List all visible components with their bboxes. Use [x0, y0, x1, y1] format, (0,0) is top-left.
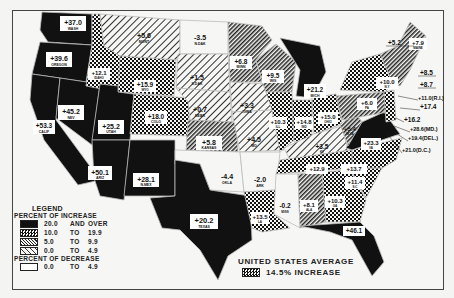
svg-text:ALA: ALA	[306, 208, 313, 212]
label-nmex: +28.1N.MEX	[133, 173, 159, 187]
label-oregon: +39.6OREGON	[46, 52, 72, 67]
label-sc: +11.4S.C	[345, 177, 365, 189]
svg-text:-2.0: -2.0	[254, 176, 266, 183]
label-calif: +53.3CALIF	[33, 120, 55, 134]
swatch-solid	[20, 220, 38, 228]
label-wyo: +15.9WYO	[134, 80, 156, 92]
legend-row-5-9: 5.0TO9.9	[14, 237, 108, 246]
svg-text:+37.0: +37.0	[64, 19, 82, 26]
svg-text:WASH: WASH	[68, 27, 79, 31]
label-ri: +11.0(R.I.)	[418, 95, 444, 101]
label-ndak: -3.5N.DAK	[194, 34, 206, 46]
us-average-value: 14.5% INCREASE	[266, 268, 341, 277]
svg-text:OREGON: OREGON	[51, 63, 67, 67]
svg-text:ARK: ARK	[256, 184, 264, 188]
svg-text:S.DAK: S.DAK	[192, 82, 203, 86]
legend-row-decrease: 0.0TO4.9	[14, 262, 108, 271]
label-ala: +8.1ALA	[300, 200, 318, 212]
label-dc: +21.0(D.C.)	[402, 147, 431, 153]
svg-text:IND: IND	[301, 125, 307, 129]
svg-text:+18.0: +18.0	[148, 113, 165, 120]
label-ohio: +15.0OHIO	[318, 112, 338, 124]
swatch-check	[242, 268, 260, 277]
svg-text:COLO: COLO	[151, 120, 161, 124]
label-nebr: +0.7NEBR	[193, 106, 207, 118]
legend-increase-header: PERCENT OF INCREASE	[14, 212, 108, 219]
svg-text:MICH: MICH	[311, 94, 320, 98]
svg-text:N.Y: N.Y	[384, 85, 389, 89]
svg-text:+50.1: +50.1	[91, 169, 109, 176]
svg-text:-4.4: -4.4	[221, 173, 233, 180]
label-sdak: +1.5S.DAK	[190, 74, 204, 86]
label-vt: +8.5	[420, 69, 433, 76]
svg-text:NEBR: NEBR	[195, 114, 205, 118]
svg-text:S.C: S.C	[352, 185, 358, 189]
svg-text:TEXAS: TEXAS	[198, 225, 210, 229]
svg-text:MONT: MONT	[139, 40, 150, 44]
label-wash: +37.0WASH	[60, 16, 86, 31]
svg-text:-0.2: -0.2	[279, 202, 291, 209]
svg-text:+6.8: +6.8	[235, 58, 248, 65]
svg-text:N.DAK: N.DAK	[194, 42, 206, 46]
svg-text:+5.6: +5.6	[137, 32, 151, 39]
label-mass: +8.7	[420, 81, 433, 88]
svg-text:CALIF: CALIF	[39, 130, 50, 134]
svg-text:+4.5: +4.5	[247, 136, 261, 143]
svg-text:+3.3: +3.3	[240, 102, 254, 109]
label-colo: +18.0COLO	[145, 111, 167, 124]
swatch-dense-hatch	[20, 238, 38, 246]
legend: LEGEND PERCENT OF INCREASE 20.0ANDOVER 1…	[14, 205, 108, 271]
label-nj: +16.2	[404, 116, 421, 123]
label-wis: +9.5WIS	[262, 70, 284, 83]
svg-text:N.MEX: N.MEX	[140, 183, 152, 187]
svg-text:+46.1: +46.1	[346, 227, 363, 234]
label-ill: +10.3ILL	[269, 117, 287, 129]
svg-text:ILL: ILL	[276, 125, 281, 129]
label-tenn: +12.9	[306, 164, 328, 174]
svg-text:+28.1: +28.1	[137, 176, 155, 183]
legend-row-0-4: 0.0TO4.9	[14, 246, 108, 255]
svg-text:+45.2: +45.2	[62, 108, 80, 115]
state-sdak	[176, 54, 230, 92]
state-nmex	[124, 140, 175, 196]
label-mich: +21.2MICH	[304, 84, 326, 98]
label-nev: +45.2NEV	[58, 105, 84, 120]
legend-row-10-19: 10.0TO19.9	[14, 228, 108, 237]
label-nc: +13.7	[341, 164, 367, 174]
svg-text:+13.7: +13.7	[346, 166, 362, 172]
svg-text:IDAHO: IDAHO	[94, 76, 104, 80]
swatch-check	[20, 229, 38, 237]
svg-text:+0.7: +0.7	[193, 106, 207, 113]
label-ariz: +50.1ARIZ	[88, 166, 112, 180]
swatch-white	[20, 263, 38, 271]
us-average: UNITED STATES AVERAGE 14.5% INCREASE	[238, 257, 354, 277]
svg-text:MISS: MISS	[281, 210, 288, 214]
svg-text:MO: MO	[251, 144, 257, 148]
label-conn: +17.4	[420, 103, 437, 110]
svg-text:+3.5: +3.5	[316, 143, 329, 150]
svg-text:UTAH: UTAH	[106, 130, 116, 134]
svg-text:+53.3: +53.3	[36, 122, 53, 129]
label-pa: +6.0PA	[357, 98, 377, 110]
svg-text:OKLA: OKLA	[222, 181, 232, 185]
svg-text:+21.2: +21.2	[307, 86, 324, 93]
state-nj-md-de	[384, 90, 396, 122]
svg-text:+5.8: +5.8	[202, 139, 216, 146]
svg-text:ARIZ: ARIZ	[96, 176, 105, 180]
label-nh: +5.2	[388, 39, 401, 46]
swatch-light-hatch	[20, 247, 38, 255]
label-la: +13.5LA	[251, 212, 269, 224]
label-md: +28.6(MD.)	[410, 126, 438, 132]
svg-text:KANSAS: KANSAS	[202, 146, 217, 150]
svg-text:+20.2: +20.2	[195, 216, 214, 225]
label-maine: +7.9MAINE	[409, 38, 427, 50]
svg-text:KY: KY	[320, 150, 324, 154]
svg-text:+39.6: +39.6	[50, 55, 68, 62]
label-texas: +20.2TEXAS	[190, 214, 218, 229]
svg-text:+15.9: +15.9	[137, 81, 154, 88]
svg-text:IOWA: IOWA	[242, 110, 252, 114]
us-average-title: UNITED STATES AVERAGE	[238, 257, 354, 266]
label-okla: -4.4OKLA	[221, 173, 233, 185]
svg-text:WIS: WIS	[270, 79, 277, 83]
svg-text:W.VA: W.VA	[346, 132, 354, 136]
